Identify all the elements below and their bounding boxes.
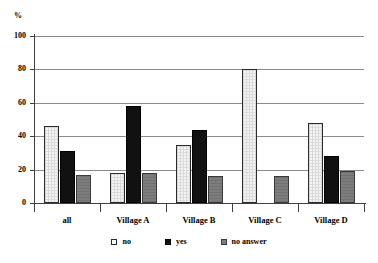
category-separator [232, 203, 233, 212]
bar [340, 171, 355, 203]
bar [142, 173, 157, 203]
plot-area [34, 36, 364, 203]
category-label-village-d: Village D [298, 216, 364, 225]
y-axis-tick-label: 100 [0, 32, 26, 40]
filled-gray-square-icon [221, 239, 227, 245]
bar-group [298, 36, 364, 203]
y-axis-tick-mark [30, 103, 35, 104]
bar [192, 130, 207, 203]
bar-group [166, 36, 232, 203]
hollow-square-icon [111, 239, 117, 245]
category-separator [298, 203, 299, 212]
legend-item: no answer [221, 238, 267, 246]
y-axis-tick-label: 20 [0, 166, 26, 174]
bar [274, 176, 289, 203]
y-axis-tick-mark [30, 136, 35, 137]
category-label-village-c: Village C [232, 216, 298, 225]
bar [242, 69, 257, 203]
bar [324, 156, 339, 203]
legend-label: yes [176, 238, 187, 246]
y-axis-tick-mark [30, 69, 35, 70]
chart-legend: noyesno answer [0, 238, 378, 246]
bar-group [34, 36, 100, 203]
y-axis-unit-label: % [14, 12, 22, 20]
bar [44, 126, 59, 203]
category-label-village-b: Village B [166, 216, 232, 225]
category-label-all: all [34, 216, 100, 225]
bar [126, 106, 141, 203]
y-axis-tick-label: 60 [0, 99, 26, 107]
legend-item: no [111, 238, 130, 246]
y-axis-tick-mark [30, 36, 35, 37]
category-separator [364, 203, 365, 212]
bar [60, 151, 75, 203]
bar [76, 175, 91, 203]
y-axis-tick-mark [30, 170, 35, 171]
legend-label: no answer [232, 238, 267, 246]
category-label-village-a: Village A [100, 216, 166, 225]
category-separator [166, 203, 167, 212]
y-axis-tick-label: 0 [0, 199, 26, 207]
y-axis-tick-label: 80 [0, 65, 26, 73]
bar-group [232, 36, 298, 203]
gridline-0 [34, 203, 364, 204]
bar [308, 123, 323, 203]
bar [208, 176, 223, 203]
bar-group [100, 36, 166, 203]
legend-item: yes [165, 238, 187, 246]
legend-label: no [122, 238, 130, 246]
category-separator [100, 203, 101, 212]
bar [176, 145, 191, 203]
bar [110, 173, 125, 203]
bar-chart: % 100806040200 allVillage AVillage BVill… [0, 0, 378, 263]
category-separator [34, 203, 35, 212]
filled-black-square-icon [165, 239, 171, 245]
y-axis-tick-label: 40 [0, 132, 26, 140]
